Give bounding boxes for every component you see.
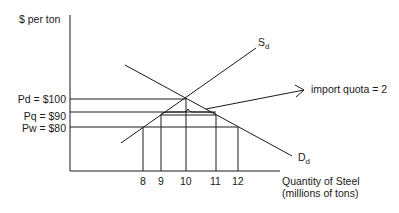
x-tick-11: 11	[210, 175, 221, 187]
supply-curve	[121, 48, 256, 143]
price-label-pd: Pd = $100	[4, 93, 66, 105]
x-axis-label: Quantity of Steel (millions of tons)	[282, 175, 360, 199]
y-axis-label: $ per ton	[19, 13, 60, 25]
import-quota-annotation: import quota = 2	[311, 83, 387, 95]
demand-label: Dd	[298, 151, 310, 168]
quota-arrow	[206, 90, 304, 109]
x-tick-8: 8	[140, 175, 146, 187]
price-label-pq: Pq = $90	[4, 110, 66, 122]
supply-label: Sd	[258, 36, 269, 53]
x-tick-12: 12	[232, 175, 244, 187]
x-tick-10: 10	[180, 175, 192, 187]
demand-curve	[125, 65, 292, 156]
price-label-pw: Pw = $80	[4, 122, 66, 134]
x-tick-9: 9	[158, 175, 164, 187]
